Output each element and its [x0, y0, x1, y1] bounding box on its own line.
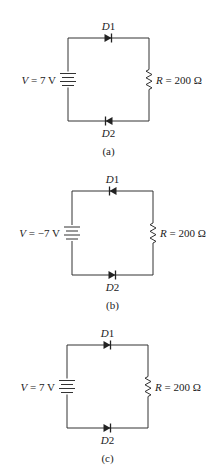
resistor-icon: [150, 223, 156, 243]
diode-d2-icon: [109, 271, 116, 280]
battery-icon: [59, 381, 75, 393]
circuit-c: D1D2V = 7 VR = 200 Ω(c): [21, 327, 201, 465]
diode-d2-icon: [106, 117, 113, 126]
battery-icon: [64, 227, 80, 239]
caption-c: (c): [101, 452, 114, 465]
caption-b: (b): [106, 299, 119, 312]
source-label: V = −7 V: [19, 227, 60, 239]
circuit-figure: D1D2V = 7 VR = 200 Ω(a)D1D2V = −7 VR = 2…: [0, 0, 220, 474]
resistor-label: R = 200 Ω: [155, 74, 202, 86]
d1-label: D1: [101, 20, 115, 32]
circuit-b: D1D2V = −7 VR = 200 Ω(b): [19, 173, 206, 312]
resistor-label: R = 200 Ω: [154, 381, 201, 393]
caption-a: (a): [102, 145, 115, 158]
resistor-icon: [145, 377, 151, 397]
d1-label: D1: [105, 173, 119, 185]
circuit-a: D1D2V = 7 VR = 200 Ω(a): [22, 20, 202, 158]
resistor-label: R = 200 Ω: [159, 227, 206, 239]
d2-label: D2: [101, 127, 115, 139]
d2-label: D2: [105, 281, 119, 293]
d2-label: D2: [100, 434, 114, 446]
battery-icon: [60, 74, 76, 86]
source-label: V = 7 V: [22, 74, 56, 86]
d1-label: D1: [100, 327, 114, 339]
diode-d1-icon: [105, 34, 112, 43]
diode-d1-icon: [104, 341, 111, 350]
source-label: V = 7 V: [21, 381, 55, 393]
resistor-icon: [146, 70, 152, 90]
diode-d1-icon: [110, 187, 117, 196]
diode-d2-icon: [104, 424, 111, 433]
